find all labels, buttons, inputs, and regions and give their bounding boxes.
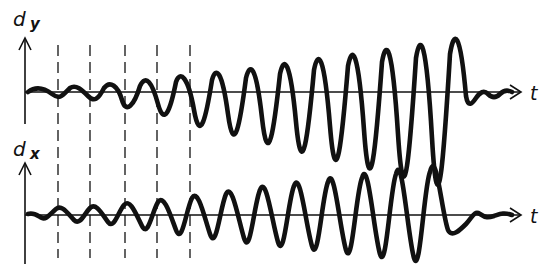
dashed-markers: [58, 45, 190, 258]
dy-label-d: d: [13, 7, 26, 31]
waveform-diagram: d y t d x t: [0, 0, 542, 273]
dy-waveform: [28, 39, 512, 185]
dx-waveform: [28, 166, 512, 261]
dy-time-label: t: [530, 82, 539, 104]
panel-dx: d x t: [13, 137, 539, 264]
panel-dy: d y t: [13, 7, 539, 185]
dy-label-subscript: y: [30, 15, 41, 33]
dx-time-label: t: [530, 205, 539, 227]
dx-label-d: d: [13, 137, 26, 161]
dy-vertical-axis: [19, 38, 31, 124]
dx-label-subscript: x: [29, 145, 41, 163]
